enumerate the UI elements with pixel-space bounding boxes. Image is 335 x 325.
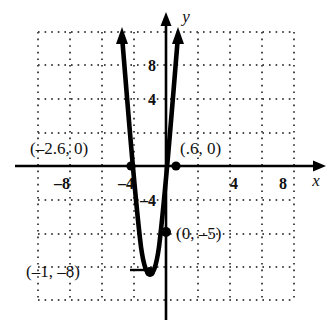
y-axis-arrowhead (161, 12, 172, 26)
x-tick-labels: –8 –4 4 8 (53, 175, 287, 192)
x-tick-label-8: 8 (279, 175, 287, 192)
y-tick-labels: 8 4 –4 (139, 57, 156, 209)
x-axis-arrowhead (313, 161, 326, 172)
graph-figure: x y –8 –4 4 8 8 4 –4 (0, 0, 335, 325)
y-tick-label--4: –4 (139, 192, 156, 209)
parabola-arrowhead-left (116, 27, 128, 44)
y-tick-label-4: 4 (148, 91, 156, 108)
point-marker-y-intercept (161, 227, 171, 237)
point-marker-x-intercept-left (126, 161, 135, 170)
annotation-x-intercept-left: (–2.6, 0) (30, 139, 88, 158)
x-tick-label--8: –8 (53, 175, 70, 192)
y-axis-label: y (180, 7, 190, 26)
x-tick-label--4: –4 (117, 175, 134, 192)
x-axis-label: x (311, 171, 320, 190)
x-tick-label-4: 4 (230, 175, 238, 192)
coordinate-plane: x y –8 –4 4 8 8 4 –4 (0, 0, 335, 325)
annotation-x-intercept-right: (.6, 0) (180, 139, 221, 158)
annotation-vertex: (–1, –8) (26, 262, 80, 281)
y-tick-label-8: 8 (148, 57, 156, 74)
annotation-y-intercept: (0, –5) (176, 224, 221, 243)
point-marker-x-intercept-right (171, 161, 180, 170)
parabola-arrowhead-right (172, 27, 184, 44)
point-marker-vertex (145, 267, 155, 277)
